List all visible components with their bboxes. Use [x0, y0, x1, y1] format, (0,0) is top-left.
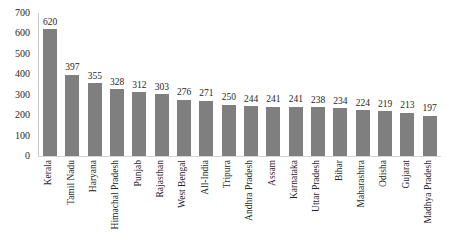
- x-tick-label: Kerala: [44, 158, 54, 185]
- bar-slot: 312: [128, 13, 150, 156]
- bar-slot: 620: [39, 13, 61, 156]
- x-tick-label: Haryana: [89, 158, 99, 192]
- bar: [244, 106, 258, 156]
- x-tick-label: Bihar: [335, 158, 345, 181]
- x-slot: Maharashtra: [351, 158, 373, 245]
- bar-value-label: 271: [199, 89, 213, 99]
- x-slot: Andhra Pradesh: [239, 158, 261, 245]
- bar: [177, 100, 191, 156]
- x-slot: All-India: [194, 158, 216, 245]
- x-tick-label: Karnataka: [290, 158, 300, 199]
- bar: [266, 107, 280, 156]
- bar: [222, 105, 236, 156]
- bar-slot: 224: [352, 13, 374, 156]
- bar: [132, 92, 146, 156]
- bar-chart: 0100200300400500600700 62039735532831230…: [0, 0, 449, 245]
- x-slot: Madhya Pradesh: [418, 158, 440, 245]
- bar-slot: 303: [151, 13, 173, 156]
- x-tick-label: Tripura: [223, 158, 233, 188]
- y-tick-label: 300: [15, 90, 30, 100]
- bar-slot: 250: [218, 13, 240, 156]
- bar-value-label: 620: [43, 18, 57, 28]
- bar-value-label: 238: [311, 96, 325, 106]
- x-tick-label: All-India: [201, 158, 211, 195]
- x-tick-label: Tamil Nadu: [67, 158, 77, 205]
- bar-slot: 276: [173, 13, 195, 156]
- x-slot: Assam: [261, 158, 283, 245]
- x-slot: Odisha: [373, 158, 395, 245]
- x-tick-label: Assam: [268, 158, 278, 186]
- bar: [43, 29, 57, 156]
- x-slot: Kerala: [38, 158, 60, 245]
- bar-value-label: 250: [222, 93, 236, 103]
- bar: [110, 89, 124, 156]
- bar: [400, 113, 414, 157]
- bar-value-label: 328: [110, 78, 124, 88]
- x-slot: Karnataka: [284, 158, 306, 245]
- y-tick-label: 0: [25, 151, 30, 161]
- bar-value-label: 312: [132, 81, 146, 91]
- bar-slot: 213: [396, 13, 418, 156]
- plot-area: 6203973553283123032762712502442412412382…: [38, 13, 441, 157]
- bar: [356, 110, 370, 156]
- x-tick-label: Rajasthan: [156, 158, 166, 197]
- x-tick-label: Himachal Pradesh: [111, 158, 121, 229]
- x-slot: West Bengal: [172, 158, 194, 245]
- bar-value-label: 355: [88, 72, 102, 82]
- x-slot: Tamil Nadu: [60, 158, 82, 245]
- y-axis: 0100200300400500600700: [0, 0, 32, 245]
- x-slot: Rajasthan: [150, 158, 172, 245]
- bar-value-label: 219: [378, 100, 392, 110]
- bar: [65, 75, 79, 156]
- bar: [155, 94, 169, 156]
- x-tick-label: Odisha: [379, 158, 389, 187]
- x-slot: Haryana: [83, 158, 105, 245]
- y-tick-label: 200: [15, 110, 30, 120]
- x-tick-label: Uttar Pradesh: [312, 158, 322, 212]
- x-slot: Gujarat: [395, 158, 417, 245]
- x-tick-label: West Bengal: [178, 158, 188, 208]
- bar-value-label: 213: [400, 101, 414, 111]
- x-tick-label: Madhya Pradesh: [424, 158, 434, 224]
- y-tick-label: 400: [15, 69, 30, 79]
- bar-value-label: 244: [244, 95, 258, 105]
- y-tick-label: 700: [15, 8, 30, 18]
- bar-slot: 219: [374, 13, 396, 156]
- bar: [423, 116, 437, 156]
- bar-slot: 241: [262, 13, 284, 156]
- x-axis: KeralaTamil NaduHaryanaHimachal PradeshP…: [38, 158, 440, 245]
- bar: [199, 101, 213, 156]
- x-slot: Uttar Pradesh: [306, 158, 328, 245]
- bar: [289, 107, 303, 156]
- bar-slot: 241: [285, 13, 307, 156]
- bar-slot: 355: [84, 13, 106, 156]
- bar-value-label: 197: [423, 104, 437, 114]
- bar: [311, 107, 325, 156]
- bar-value-label: 303: [155, 83, 169, 93]
- y-tick-label: 500: [15, 49, 30, 59]
- bar: [88, 83, 102, 156]
- bar: [378, 111, 392, 156]
- x-tick-label: Andhra Pradesh: [245, 158, 255, 221]
- bar-slot: 244: [240, 13, 262, 156]
- x-tick-label: Punjab: [134, 158, 144, 186]
- y-tick-label: 600: [15, 28, 30, 38]
- bar-value-label: 397: [65, 63, 79, 73]
- bar-slot: 197: [419, 13, 441, 156]
- x-slot: Himachal Pradesh: [105, 158, 127, 245]
- x-slot: Punjab: [127, 158, 149, 245]
- bar: [333, 108, 347, 156]
- x-slot: Bihar: [328, 158, 350, 245]
- x-slot: Tripura: [217, 158, 239, 245]
- bar-slot: 234: [329, 13, 351, 156]
- bar-slot: 271: [195, 13, 217, 156]
- x-tick-label: Maharashtra: [357, 158, 367, 207]
- y-tick-label: 100: [15, 131, 30, 141]
- bar-slot: 238: [307, 13, 329, 156]
- bar-value-label: 234: [333, 97, 347, 107]
- bar-value-label: 224: [356, 99, 370, 109]
- bar-slot: 397: [61, 13, 83, 156]
- bar-value-label: 241: [289, 95, 303, 105]
- x-tick-label: Gujarat: [402, 158, 412, 189]
- bar-slot: 328: [106, 13, 128, 156]
